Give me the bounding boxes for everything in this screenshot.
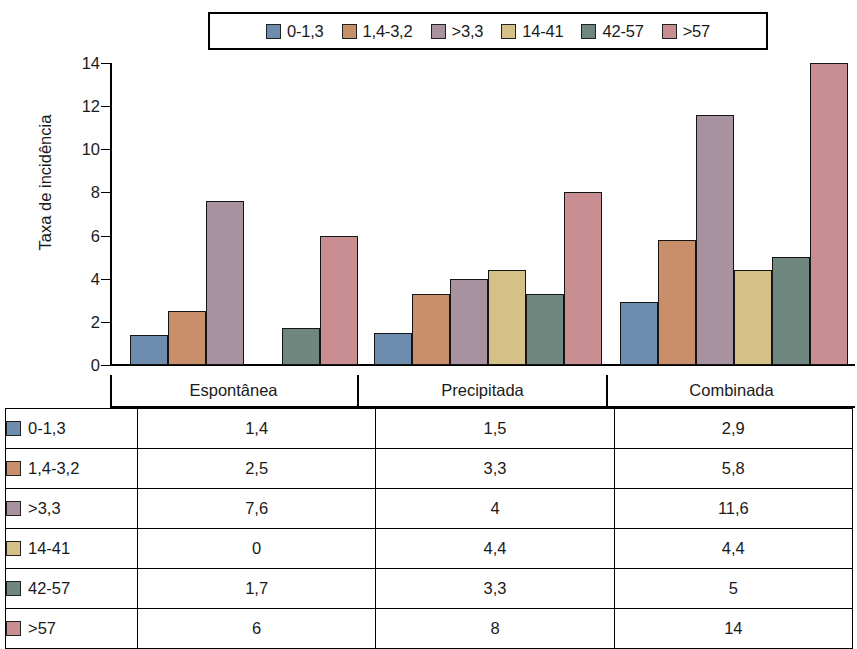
table-row: >3,37,6411,6 [6,489,853,529]
table-cell: 3,3 [376,569,614,609]
table-cell: 3,3 [376,449,614,489]
bar [772,257,810,365]
x-axis-category-label: Combinada [608,375,855,406]
table-cell: 7,6 [138,489,376,529]
table-row-header: 0-1,3 [6,409,138,449]
y-axis-tick-mark [101,106,110,107]
table-cell: 5,8 [614,449,852,489]
table-cell: 4,4 [376,529,614,569]
bar [206,201,244,365]
table-row-header-inner: >57 [6,619,137,638]
bar [526,294,564,365]
y-axis-tick-mark [101,63,110,64]
table-row-header-inner: 14-41 [6,539,137,558]
y-axis-tick-label: 8 [70,183,100,202]
table-row-header: 42-57 [6,569,138,609]
table-row-label: >57 [28,619,56,638]
y-axis-title: Taxa de incidência [36,83,55,283]
table-row-label: 42-57 [28,579,70,598]
legend-swatch-icon [581,24,596,39]
series-swatch-icon [6,501,21,516]
series-swatch-icon [6,541,21,556]
table-cell: 4 [376,489,614,529]
table-cell: 0 [138,529,376,569]
bars-container [112,63,855,365]
table-cell: 1,7 [138,569,376,609]
table-row-label: 1,4-3,2 [28,459,79,478]
table-row-header: 1,4-3,2 [6,449,138,489]
legend-swatch-icon [342,24,357,39]
y-axis-tick-label: 6 [70,226,100,245]
table-row-label: >3,3 [28,499,61,518]
table-row-header: 14-41 [6,529,138,569]
table-row: 42-571,73,35 [6,569,853,609]
legend-swatch-icon [501,24,516,39]
table-row: 1,4-3,22,53,35,8 [6,449,853,489]
bar [374,333,412,365]
y-axis-tick-mark [101,192,110,193]
legend-item: >3,3 [431,22,484,41]
category-band-left-edge [110,375,112,408]
data-table: 0-1,31,41,52,91,4-3,22,53,35,8>3,37,6411… [5,408,853,649]
bar [130,335,168,365]
table-cell: 5 [614,569,852,609]
legend-swatch-icon [266,24,281,39]
table-row: 14-4104,44,4 [6,529,853,569]
table-cell: 2,5 [138,449,376,489]
legend-item: 0-1,3 [266,22,324,41]
table-cell: 4,4 [614,529,852,569]
bar [282,328,320,365]
bar [168,311,206,365]
series-swatch-icon [6,461,21,476]
table-row-header-inner: 1,4-3,2 [6,459,137,478]
table-row: >576814 [6,609,853,649]
table-cell: 2,9 [614,409,852,449]
table-cell: 14 [614,609,852,649]
table-cell: 8 [376,609,614,649]
legend-item: >57 [662,22,710,41]
table-row-header-inner: 0-1,3 [6,419,137,438]
y-axis-tick-mark [101,149,110,150]
y-axis-tick-label: 4 [70,269,100,288]
y-axis-tick-label: 2 [70,312,100,331]
y-axis-tick-mark [101,236,110,237]
table-row-header: >3,3 [6,489,138,529]
x-axis-category-label: Precipitada [359,375,608,406]
chart-legend: 0-1,31,4-3,2>3,314-4142-57>57 [208,12,768,50]
bar [734,270,772,365]
bar [658,240,696,365]
y-axis-tick-label: 10 [70,140,100,159]
legend-item-label: >57 [683,22,710,41]
series-swatch-icon [6,421,21,436]
legend-swatch-icon [662,24,677,39]
series-swatch-icon [6,581,21,596]
bar [810,63,848,365]
table-cell: 11,6 [614,489,852,529]
table-cell: 1,4 [138,409,376,449]
legend-item-label: 1,4-3,2 [363,22,413,41]
y-axis-tick-label: 12 [70,97,100,116]
y-axis-tick-label: 14 [70,54,100,73]
y-axis-tick-mark [101,322,110,323]
bar-group [130,63,358,365]
table-cell: 6 [138,609,376,649]
table-row-header: >57 [6,609,138,649]
series-swatch-icon [6,621,21,636]
bar [320,236,358,365]
bar [620,302,658,365]
bar-group [374,63,602,365]
legend-item-label: 0-1,3 [287,22,324,41]
table-cell: 1,5 [376,409,614,449]
x-axis-category-band: EspontâneaPrecipitadaCombinada [110,375,855,408]
table-row-label: 0-1,3 [28,419,66,438]
legend-item-label: 42-57 [602,22,643,41]
x-axis-category-label: Espontânea [110,375,359,406]
legend-item-label: >3,3 [452,22,484,41]
legend-item-label: 14-41 [522,22,563,41]
bar [450,279,488,365]
y-axis-tick-mark [101,279,110,280]
table-row-header-inner: >3,3 [6,499,137,518]
bar [696,115,734,365]
legend-item: 1,4-3,2 [342,22,413,41]
table-row: 0-1,31,41,52,9 [6,409,853,449]
